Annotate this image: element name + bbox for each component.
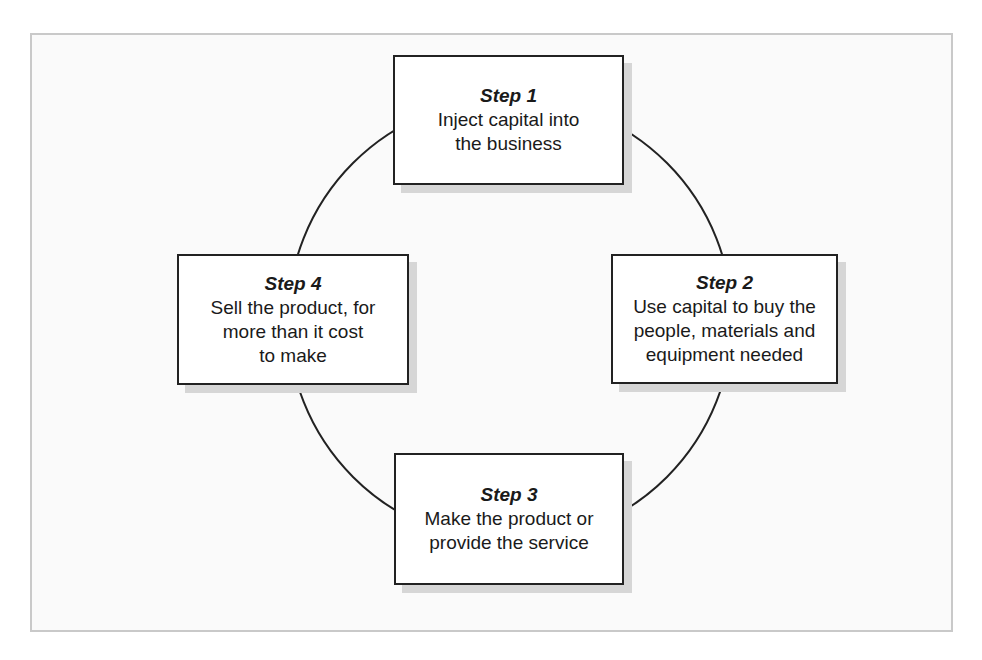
step-3-text: Make the product or provide the service: [425, 507, 594, 555]
step-2-text: Use capital to buy the people, materials…: [633, 295, 816, 367]
step-4-title: Step 4: [264, 272, 321, 296]
step-4-box: Step 4 Sell the product, for more than i…: [177, 254, 409, 385]
step-1-text: Inject capital into the business: [438, 108, 580, 156]
step-1-box: Step 1 Inject capital into the business: [393, 55, 624, 185]
step-1-title: Step 1: [480, 84, 537, 108]
step-3-box: Step 3 Make the product or provide the s…: [394, 453, 624, 585]
step-4-text: Sell the product, for more than it cost …: [211, 296, 376, 368]
step-3-title: Step 3: [480, 483, 537, 507]
step-2-title: Step 2: [696, 271, 753, 295]
step-2-box: Step 2 Use capital to buy the people, ma…: [611, 254, 838, 384]
